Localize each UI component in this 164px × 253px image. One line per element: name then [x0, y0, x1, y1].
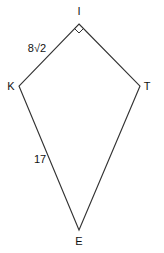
- kite-outline: [19, 24, 140, 230]
- side-label-ik: 8√2: [28, 42, 46, 54]
- vertex-label-k: K: [7, 80, 15, 92]
- right-angle-marker: [75, 24, 84, 33]
- vertex-label-e: E: [75, 235, 82, 247]
- vertex-label-i: I: [77, 5, 80, 17]
- vertex-label-t: T: [144, 80, 151, 92]
- kite-diagram: I K T E 8√2 17: [0, 0, 164, 253]
- side-label-ke: 17: [34, 153, 46, 165]
